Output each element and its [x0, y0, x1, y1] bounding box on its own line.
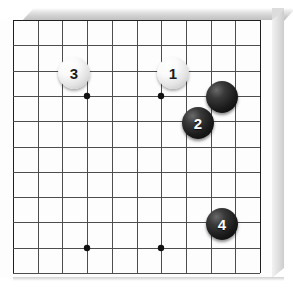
star-point-bottom-left — [84, 245, 90, 251]
stone-unnumbered-black[interactable] — [206, 81, 238, 113]
star-point-top-left — [84, 93, 90, 99]
go-board-diagram: 3124 — [0, 0, 293, 299]
star-point-bottom-right — [158, 245, 164, 251]
stone-4-label: 4 — [218, 217, 226, 232]
stone-2-label: 2 — [194, 116, 202, 131]
board-grid — [0, 20, 293, 299]
star-point-top-right — [158, 93, 164, 99]
stone-3[interactable]: 3 — [58, 57, 90, 89]
stone-4[interactable]: 4 — [206, 208, 238, 240]
stone-3-label: 3 — [70, 66, 78, 81]
board-shadow — [13, 277, 284, 281]
stone-1-label: 1 — [169, 66, 177, 81]
board-playing-surface[interactable] — [0, 20, 272, 278]
stone-1[interactable]: 1 — [157, 57, 189, 89]
stone-2[interactable]: 2 — [182, 107, 214, 139]
